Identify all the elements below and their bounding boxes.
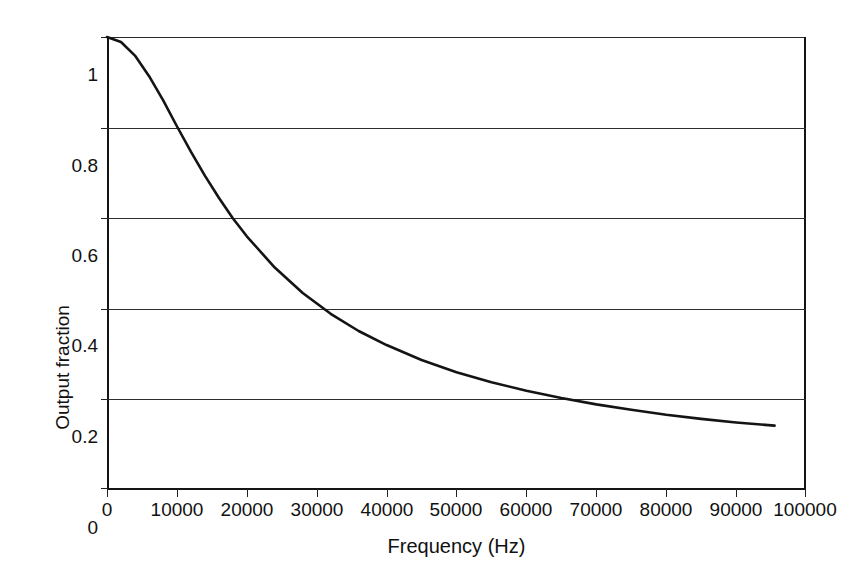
y-tick-label: 0.2 [72, 427, 98, 446]
x-tick-label: 50000 [430, 500, 483, 519]
x-tick [596, 489, 597, 497]
x-tick-label: 100000 [773, 500, 836, 519]
x-tick-label: 20000 [221, 500, 274, 519]
x-tick-label: 40000 [361, 500, 414, 519]
x-tick [526, 489, 527, 497]
x-tick-label: 30000 [291, 500, 344, 519]
x-tick [107, 489, 108, 497]
x-tick-label: 60000 [500, 500, 553, 519]
y-tick-label: 0 [87, 518, 98, 537]
x-tick [247, 489, 248, 497]
y-axis-title: Output fraction [53, 268, 72, 468]
x-tick-label: 90000 [710, 500, 763, 519]
data-curve-line [107, 37, 775, 426]
x-tick-label: 80000 [640, 500, 693, 519]
x-tick [456, 489, 457, 497]
x-tick [387, 489, 388, 497]
x-tick-label: 0 [102, 500, 113, 519]
x-axis-tick-labels: 0 10000 20000 30000 40000 50000 60000 70… [107, 500, 806, 524]
y-tick-label: 1 [87, 65, 98, 84]
x-tick [666, 489, 667, 497]
x-axis-title: Frequency (Hz) [107, 535, 806, 557]
x-tick [177, 489, 178, 497]
x-tick [317, 489, 318, 497]
y-tick-label: 0.8 [72, 156, 98, 175]
y-tick-label: 0.6 [72, 246, 98, 265]
plot-area [107, 37, 806, 490]
x-tick [805, 489, 806, 497]
chart-figure: 1 0.8 0.6 0.4 0.2 0 Output fraction [0, 0, 865, 583]
x-tick [736, 489, 737, 497]
y-axis-title-wrapper: Output fraction [36, 160, 60, 400]
y-tick-label: 0.4 [72, 336, 98, 355]
x-tick-label: 70000 [570, 500, 623, 519]
x-tick-label: 10000 [151, 500, 204, 519]
data-curve-svg [107, 37, 806, 490]
